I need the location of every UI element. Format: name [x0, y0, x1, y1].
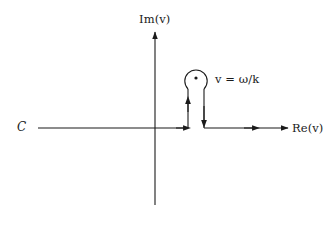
contour-diagram-canvas	[0, 0, 325, 231]
pole-marker-dot	[194, 76, 197, 79]
pole-annotation-label: v = ω/k	[215, 72, 259, 86]
imaginary-axis-label: Im(v)	[139, 12, 170, 26]
contour-integral-figure: Im(v) Re(v) C v = ω/k	[0, 0, 325, 231]
contour-label: C	[17, 120, 26, 134]
real-axis-label: Re(v)	[292, 121, 323, 135]
